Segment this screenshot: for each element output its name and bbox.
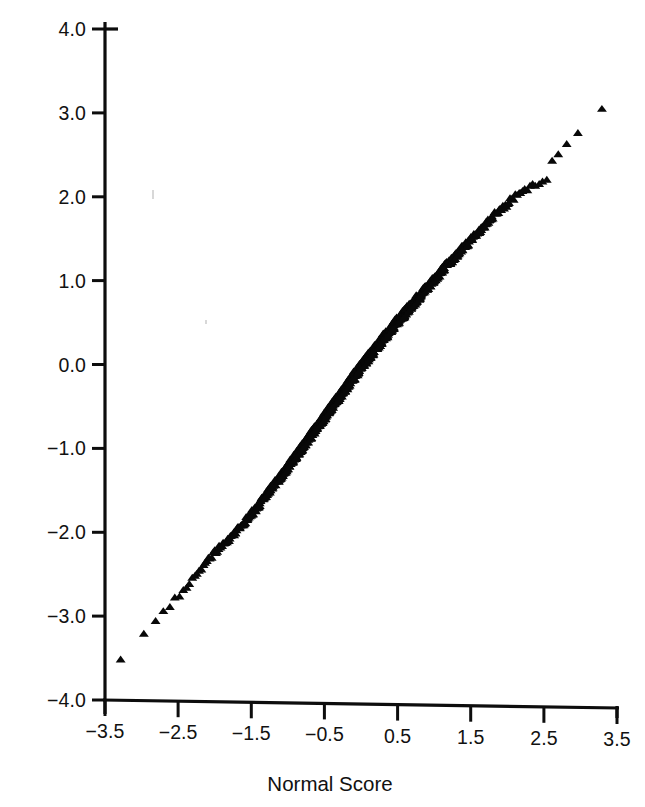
x-tick-label-2: −1.5: [232, 722, 271, 744]
scan-speck: [152, 190, 154, 199]
scan-speck: [205, 320, 207, 324]
x-tick-label-6: 2.5: [530, 727, 557, 749]
normal-probability-plot-figure: 4.03.02.01.00.0−1.0−2.0−3.0−4.0 −3.5−2.5…: [0, 0, 645, 807]
data-point-marker: [151, 617, 161, 624]
x-tick-label-7: 3.5: [603, 728, 630, 750]
x-tick-label-3: −0.5: [305, 723, 344, 745]
x-axis-line: [103, 700, 619, 708]
y-tick-label-4: 0.0: [59, 354, 86, 376]
y-tick-label-0: 4.0: [59, 18, 86, 40]
y-axis-tick-labels: 4.03.02.01.00.0−1.0−2.0−3.0−4.0: [47, 18, 86, 711]
data-point-marker: [165, 603, 175, 610]
x-tick-label-0: −3.5: [86, 720, 125, 742]
data-point-marker: [139, 630, 149, 637]
y-tick-label-8: −4.0: [47, 689, 86, 711]
x-tick-label-4: 0.5: [384, 725, 411, 747]
plot-canvas: 4.03.02.01.00.0−1.0−2.0−3.0−4.0 −3.5−2.5…: [0, 0, 645, 807]
x-tick-label-5: 1.5: [457, 726, 484, 748]
x-tick-label-1: −2.5: [159, 721, 198, 743]
data-point-marker: [547, 157, 557, 164]
data-points-layer: [116, 105, 607, 663]
y-tick-label-2: 2.0: [59, 186, 86, 208]
y-tick-label-3: 1.0: [59, 270, 86, 292]
data-point-marker: [597, 105, 607, 112]
data-point-marker: [573, 129, 583, 136]
y-axis-ticks: [92, 29, 105, 700]
scan-artifacts: [152, 190, 207, 324]
data-point-marker: [184, 580, 194, 587]
data-point-marker: [116, 656, 126, 663]
y-tick-label-6: −2.0: [47, 521, 86, 543]
y-tick-label-5: −1.0: [47, 437, 86, 459]
y-tick-label-1: 3.0: [59, 102, 86, 124]
y-tick-label-7: −3.0: [47, 605, 86, 627]
data-point-marker: [562, 140, 572, 147]
x-axis-tick-labels: −3.5−2.5−1.5−0.50.51.52.53.5: [86, 720, 631, 750]
data-point-marker: [553, 150, 563, 157]
x-axis-title: Normal Score: [267, 772, 392, 795]
